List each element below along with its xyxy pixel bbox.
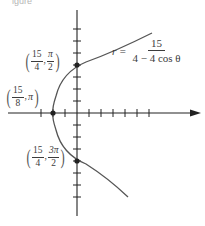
equation-fraction: 15 4 − 4 cos θ <box>129 37 183 64</box>
label-point-pi-over-2: (154,π2) <box>24 50 61 72</box>
equation-denominator: 4 − 4 cos θ <box>129 51 183 64</box>
equation-lhs: r = <box>112 45 126 57</box>
equation-numerator: 15 <box>148 37 165 51</box>
point-pi <box>50 110 55 115</box>
point-3pi-over-2 <box>74 158 79 163</box>
axis-arrow-icon <box>190 110 201 117</box>
curve-equation: r = 15 4 − 4 cos θ <box>112 37 184 64</box>
plot-canvas <box>0 0 205 226</box>
label-point-pi: (158,π) <box>5 86 40 108</box>
point-pi-over-2 <box>74 62 79 67</box>
polar-parabola-figure: igure <box>0 0 205 226</box>
label-point-3pi-over-2: (154,3π2) <box>25 146 66 168</box>
